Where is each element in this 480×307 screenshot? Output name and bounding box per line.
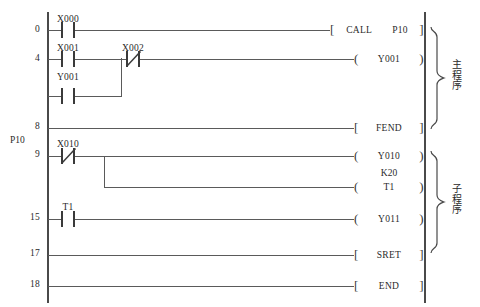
bracket-left-icon: [ xyxy=(354,246,359,263)
rung-15-wire-left xyxy=(48,219,56,220)
coil-y011[interactable]: ( Y011 ) xyxy=(354,210,424,227)
rung-4-wire-mid xyxy=(81,59,121,60)
bracket-right-icon: ] xyxy=(419,119,424,136)
paren-right-icon: ) xyxy=(419,210,424,227)
instruction-call-p10[interactable]: [ CALL P10 ] xyxy=(330,21,424,38)
brace-main-program xyxy=(428,26,448,130)
contact-label-y001: Y001 xyxy=(44,72,92,82)
rung-9-wire-right xyxy=(81,156,354,157)
rung-18-wire xyxy=(48,286,354,287)
coil-y011-label: Y011 xyxy=(378,214,400,224)
contact-x002-nc[interactable] xyxy=(120,51,146,67)
coil-y010-label: Y010 xyxy=(378,151,400,161)
subroutine-char-1: 子 xyxy=(450,184,463,195)
main-program-char-3: 序 xyxy=(450,81,463,92)
bracket-left-icon: [ xyxy=(330,21,335,38)
ladder-diagram: 0 X000 [ CALL P10 ] 4 X001 X002 Y001 xyxy=(0,0,480,307)
paren-right-icon: ) xyxy=(419,147,424,164)
branch-wire-left xyxy=(48,96,56,97)
end-label: END xyxy=(379,281,399,291)
paren-right-icon: ) xyxy=(419,178,424,195)
bracket-left-icon: [ xyxy=(354,277,359,294)
call-op-label: CALL xyxy=(346,25,376,35)
coil-y001[interactable]: ( Y001 ) xyxy=(354,50,424,67)
paren-right-icon: ) xyxy=(419,50,424,67)
nc-slash-icon xyxy=(125,50,142,68)
paren-left-icon: ( xyxy=(354,210,359,227)
paren-left-icon: ( xyxy=(354,147,359,164)
paren-left-icon: ( xyxy=(354,178,359,195)
instruction-sret[interactable]: [ SRET ] xyxy=(354,246,424,263)
rung-8-wire xyxy=(48,128,354,129)
subroutine-char-3: 序 xyxy=(450,205,463,216)
bracket-right-icon: ] xyxy=(419,277,424,294)
contact-y001-no[interactable] xyxy=(55,88,81,104)
step-number-15: 15 xyxy=(6,212,40,222)
contact-t1-no[interactable] xyxy=(55,211,81,227)
bracket-right-icon: ] xyxy=(419,21,424,38)
bracket-right-icon: ] xyxy=(419,246,424,263)
rung-0-wire xyxy=(48,30,56,31)
call-arg-label: P10 xyxy=(392,25,408,35)
branch-vertical-connector xyxy=(121,58,122,96)
step-number-18: 18 xyxy=(6,279,40,289)
nc-slash-icon xyxy=(60,147,77,165)
bracket-left-icon: [ xyxy=(354,119,359,136)
group-label-subroutine: 子 程 序 xyxy=(450,184,463,216)
main-program-char-1: 主 xyxy=(450,60,463,71)
pointer-label-p10: P10 xyxy=(10,135,25,145)
timer-branch-wire xyxy=(104,187,354,188)
rung-17-wire xyxy=(48,255,354,256)
contact-x001-no[interactable] xyxy=(55,51,81,67)
step-number-4: 4 xyxy=(6,53,40,63)
rung-0-wire-right xyxy=(81,30,330,31)
coil-t1-label: T1 xyxy=(383,182,394,192)
branch-wire-right xyxy=(81,96,122,97)
step-number-8: 8 xyxy=(6,121,40,131)
rung-4-wire-right xyxy=(146,59,354,60)
group-label-main-program: 主 程 序 xyxy=(450,60,463,92)
rung-4-wire-left xyxy=(48,59,56,60)
step-number-0: 0 xyxy=(6,24,40,34)
right-power-rail xyxy=(424,12,426,303)
brace-subroutine xyxy=(428,150,448,254)
paren-left-icon: ( xyxy=(354,50,359,67)
step-number-17: 17 xyxy=(6,248,40,258)
fend-label: FEND xyxy=(376,123,402,133)
coil-y001-label: Y001 xyxy=(378,54,400,64)
step-number-9: 9 xyxy=(6,149,40,159)
instruction-end[interactable]: [ END ] xyxy=(354,277,424,294)
timer-branch-vertical xyxy=(104,156,105,187)
left-power-rail xyxy=(47,12,49,303)
coil-y010[interactable]: ( Y010 ) xyxy=(354,147,424,164)
instruction-fend[interactable]: [ FEND ] xyxy=(354,119,424,136)
rung-9-wire-left xyxy=(48,156,56,157)
contact-x010-nc[interactable] xyxy=(55,148,81,164)
timer-preset-k20: K20 xyxy=(354,168,424,178)
coil-timer-t1[interactable]: ( T1 ) xyxy=(354,178,424,195)
contact-x000-no[interactable] xyxy=(55,22,81,38)
sret-label: SRET xyxy=(377,250,401,260)
rung-15-wire-right xyxy=(81,219,354,220)
